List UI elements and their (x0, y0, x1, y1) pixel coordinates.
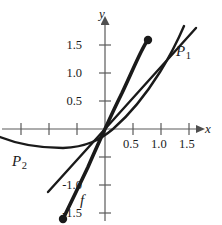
x-tick-label-1-5: 1.5 (179, 138, 195, 151)
y-tick-label-neg-1-5: -1.5 (50, 207, 82, 220)
y-tick-label-0-5: 0.5 (52, 95, 82, 108)
y-axis-label: y (99, 7, 105, 20)
curve-label-p2: P2 (12, 154, 27, 172)
y-tick-label-neg-1-0: -1.0 (50, 179, 82, 192)
y-tick-label-1-5: 1.5 (52, 39, 82, 52)
x-axis-label: x (205, 122, 211, 135)
plot-canvas (0, 0, 222, 225)
f-upper-endpoint-dot (144, 36, 152, 44)
p2-base: P (12, 153, 21, 169)
x-tick-label-0-5: 0.5 (123, 138, 139, 151)
taylor-polynomial-figure: 1.5 1.0 0.5 -1.0 -1.5 0.5 1.0 1.5 x y P1… (0, 0, 222, 225)
p2-subscript: 2 (21, 160, 27, 171)
curve-p1 (48, 28, 196, 192)
y-tick-label-1-0: 1.0 (52, 67, 82, 80)
curve-p2 (0, 26, 184, 148)
p1-base: P (176, 43, 185, 59)
x-tick-label-1-0: 1.0 (151, 138, 167, 151)
curve-label-p1: P1 (176, 44, 191, 62)
curve-label-f: f (80, 193, 84, 208)
axis-lines (2, 24, 197, 221)
p1-subscript: 1 (185, 50, 191, 61)
